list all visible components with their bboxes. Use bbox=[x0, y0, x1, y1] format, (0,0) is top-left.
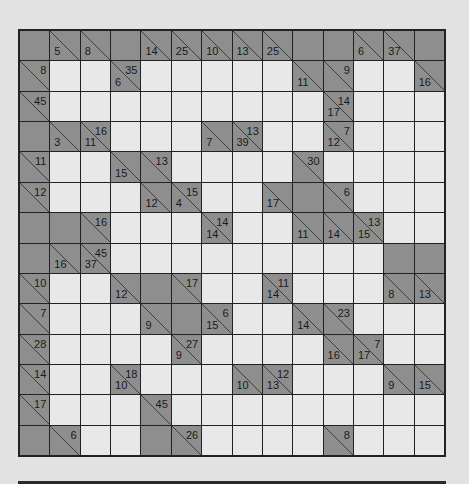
entry-cell[interactable] bbox=[324, 274, 353, 303]
entry-cell[interactable] bbox=[81, 274, 110, 303]
entry-cell[interactable] bbox=[202, 426, 231, 455]
entry-cell[interactable] bbox=[172, 122, 201, 151]
entry-cell[interactable] bbox=[324, 152, 353, 181]
entry-cell[interactable] bbox=[233, 335, 262, 364]
entry-cell[interactable] bbox=[172, 213, 201, 242]
entry-cell[interactable] bbox=[111, 395, 140, 424]
entry-cell[interactable] bbox=[263, 122, 292, 151]
entry-cell[interactable] bbox=[384, 426, 413, 455]
entry-cell[interactable] bbox=[293, 426, 322, 455]
entry-cell[interactable] bbox=[111, 183, 140, 212]
entry-cell[interactable] bbox=[263, 335, 292, 364]
entry-cell[interactable] bbox=[384, 213, 413, 242]
entry-cell[interactable] bbox=[111, 335, 140, 364]
entry-cell[interactable] bbox=[202, 183, 231, 212]
entry-cell[interactable] bbox=[324, 244, 353, 273]
entry-cell[interactable] bbox=[415, 335, 444, 364]
entry-cell[interactable] bbox=[202, 244, 231, 273]
entry-cell[interactable] bbox=[172, 365, 201, 394]
entry-cell[interactable] bbox=[50, 335, 79, 364]
entry-cell[interactable] bbox=[81, 365, 110, 394]
entry-cell[interactable] bbox=[111, 122, 140, 151]
entry-cell[interactable] bbox=[111, 213, 140, 242]
entry-cell[interactable] bbox=[202, 335, 231, 364]
entry-cell[interactable] bbox=[233, 183, 262, 212]
entry-cell[interactable] bbox=[263, 92, 292, 121]
entry-cell[interactable] bbox=[293, 122, 322, 151]
entry-cell[interactable] bbox=[233, 395, 262, 424]
entry-cell[interactable] bbox=[384, 92, 413, 121]
entry-cell[interactable] bbox=[354, 365, 383, 394]
entry-cell[interactable] bbox=[172, 152, 201, 181]
entry-cell[interactable] bbox=[111, 304, 140, 333]
entry-cell[interactable] bbox=[324, 395, 353, 424]
entry-cell[interactable] bbox=[202, 274, 231, 303]
entry-cell[interactable] bbox=[415, 426, 444, 455]
entry-cell[interactable] bbox=[384, 395, 413, 424]
entry-cell[interactable] bbox=[141, 213, 170, 242]
entry-cell[interactable] bbox=[172, 92, 201, 121]
entry-cell[interactable] bbox=[141, 335, 170, 364]
entry-cell[interactable] bbox=[233, 61, 262, 90]
entry-cell[interactable] bbox=[81, 152, 110, 181]
entry-cell[interactable] bbox=[354, 122, 383, 151]
entry-cell[interactable] bbox=[233, 244, 262, 273]
entry-cell[interactable] bbox=[293, 92, 322, 121]
entry-cell[interactable] bbox=[233, 92, 262, 121]
entry-cell[interactable] bbox=[415, 183, 444, 212]
entry-cell[interactable] bbox=[354, 304, 383, 333]
entry-cell[interactable] bbox=[202, 365, 231, 394]
entry-cell[interactable] bbox=[415, 304, 444, 333]
entry-cell[interactable] bbox=[263, 61, 292, 90]
entry-cell[interactable] bbox=[293, 365, 322, 394]
entry-cell[interactable] bbox=[263, 304, 292, 333]
entry-cell[interactable] bbox=[415, 213, 444, 242]
entry-cell[interactable] bbox=[50, 274, 79, 303]
entry-cell[interactable] bbox=[263, 395, 292, 424]
entry-cell[interactable] bbox=[202, 61, 231, 90]
entry-cell[interactable] bbox=[81, 395, 110, 424]
entry-cell[interactable] bbox=[384, 183, 413, 212]
entry-cell[interactable] bbox=[415, 122, 444, 151]
entry-cell[interactable] bbox=[384, 61, 413, 90]
entry-cell[interactable] bbox=[50, 304, 79, 333]
entry-cell[interactable] bbox=[263, 426, 292, 455]
entry-cell[interactable] bbox=[141, 365, 170, 394]
entry-cell[interactable] bbox=[384, 152, 413, 181]
entry-cell[interactable] bbox=[263, 152, 292, 181]
entry-cell[interactable] bbox=[202, 92, 231, 121]
entry-cell[interactable] bbox=[172, 244, 201, 273]
entry-cell[interactable] bbox=[81, 183, 110, 212]
entry-cell[interactable] bbox=[202, 395, 231, 424]
entry-cell[interactable] bbox=[384, 304, 413, 333]
entry-cell[interactable] bbox=[293, 335, 322, 364]
entry-cell[interactable] bbox=[415, 152, 444, 181]
entry-cell[interactable] bbox=[141, 244, 170, 273]
entry-cell[interactable] bbox=[354, 426, 383, 455]
entry-cell[interactable] bbox=[172, 395, 201, 424]
entry-cell[interactable] bbox=[141, 61, 170, 90]
entry-cell[interactable] bbox=[354, 92, 383, 121]
entry-cell[interactable] bbox=[233, 426, 262, 455]
entry-cell[interactable] bbox=[354, 183, 383, 212]
entry-cell[interactable] bbox=[233, 152, 262, 181]
entry-cell[interactable] bbox=[324, 365, 353, 394]
entry-cell[interactable] bbox=[141, 122, 170, 151]
entry-cell[interactable] bbox=[141, 92, 170, 121]
entry-cell[interactable] bbox=[293, 395, 322, 424]
entry-cell[interactable] bbox=[50, 152, 79, 181]
entry-cell[interactable] bbox=[354, 274, 383, 303]
entry-cell[interactable] bbox=[293, 274, 322, 303]
entry-cell[interactable] bbox=[50, 183, 79, 212]
entry-cell[interactable] bbox=[50, 61, 79, 90]
entry-cell[interactable] bbox=[111, 244, 140, 273]
entry-cell[interactable] bbox=[293, 244, 322, 273]
entry-cell[interactable] bbox=[81, 61, 110, 90]
entry-cell[interactable] bbox=[263, 213, 292, 242]
entry-cell[interactable] bbox=[415, 395, 444, 424]
entry-cell[interactable] bbox=[202, 152, 231, 181]
entry-cell[interactable] bbox=[354, 152, 383, 181]
entry-cell[interactable] bbox=[111, 426, 140, 455]
entry-cell[interactable] bbox=[81, 335, 110, 364]
entry-cell[interactable] bbox=[233, 213, 262, 242]
